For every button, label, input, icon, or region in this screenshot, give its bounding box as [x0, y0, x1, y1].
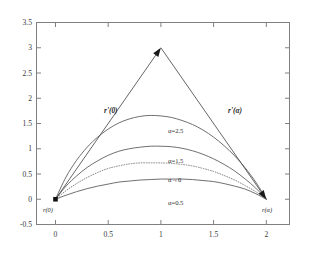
endpoint-marker-r-0: [53, 197, 58, 202]
x-tick-label-1-5: 1.5: [209, 230, 219, 239]
y-tick-label-1-5: 1.5: [23, 119, 33, 128]
plot-area: 3.5 3 2.5 2 1.5 1 0.5 0 -0.5 0 0.5 1 1.5…: [0, 0, 328, 264]
vector-label-r-prime-alpha: r'(α): [228, 106, 242, 115]
x-tick-label-1: 1: [159, 230, 163, 239]
figure-canvas: 3.5 3 2.5 2 1.5 1 0.5 0 -0.5 0 0.5 1 1.5…: [0, 0, 328, 264]
curve-label-alpha-1-5: α=1.5: [168, 157, 184, 164]
point-label-r-0: r(0): [43, 206, 53, 214]
vector-group: [55, 48, 266, 200]
point-label-r-alpha: r(α): [262, 206, 272, 214]
curve-group: [55, 115, 266, 199]
axes-frame: [37, 23, 290, 225]
x-tick-label-2: 2: [264, 230, 268, 239]
curve-label-alpha-0-5: α=0.5: [168, 199, 184, 206]
curve-label-alpha-2-5: α=2.5: [168, 127, 184, 134]
y-tick-label-3-5: 3.5: [23, 18, 33, 27]
y-tick-label-0-5: 0.5: [23, 170, 33, 179]
x-tick-label-0-5: 0.5: [103, 230, 113, 239]
y-tick-label-3: 3: [28, 43, 32, 52]
y-tick-marks: [37, 23, 290, 225]
y-tick-label-2: 2: [28, 94, 32, 103]
y-tick-label-1: 1: [28, 144, 32, 153]
marker-group: [53, 197, 58, 202]
curve-label-alpha-0: α→0: [168, 176, 182, 183]
x-tick-label-0: 0: [54, 230, 58, 239]
curve-alpha->0: [55, 163, 266, 199]
vector-arrowhead-r-prime-0: [153, 48, 161, 57]
y-tick-label-0: 0: [28, 195, 32, 204]
y-tick-label-2-5: 2.5: [23, 69, 33, 78]
vector-line-r-prime-0: [55, 55, 155, 199]
curve-alpha=0.5: [55, 179, 266, 199]
y-tick-label-neg-0-5: -0.5: [20, 220, 32, 229]
x-tick-marks: [56, 23, 267, 225]
vector-label-r-prime-0: r'(0): [104, 106, 118, 115]
curve-alpha=2.5: [55, 115, 266, 199]
